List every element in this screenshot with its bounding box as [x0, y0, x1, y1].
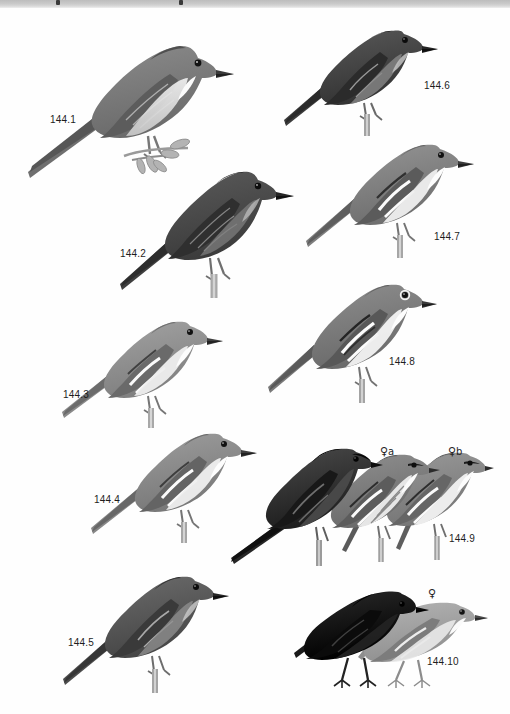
header-glyph [56, 0, 60, 5]
female-symbol-icon: ♀ [428, 587, 436, 600]
bird-illustration-144-8 [262, 265, 437, 405]
figure-144-6 [278, 14, 438, 139]
figure-label-144-3: 144.3 [63, 390, 89, 400]
bird-group-illustration-144-10 [292, 576, 492, 691]
figure-label-144-5: 144.5 [68, 638, 94, 648]
header-glyph [179, 0, 183, 5]
sex-label-144-9-a: ♀a [380, 446, 394, 457]
page-header-strip [0, 0, 510, 8]
figure-144-8 [262, 265, 437, 405]
sex-label-144-10-female: ♀ [428, 588, 436, 599]
female-symbol-icon: ♀ [380, 445, 388, 458]
sex-label-144-9-b: ♀b [448, 446, 462, 457]
figure-label-144-6: 144.6 [424, 81, 450, 91]
sub-label-b: b [456, 446, 462, 457]
bird-illustration-144-6 [278, 14, 438, 139]
figure-label-144-7: 144.7 [434, 232, 460, 242]
field-guide-plate: 144.1 [0, 0, 510, 714]
figure-label-144-2: 144.2 [120, 249, 146, 259]
bird-illustration-144-5 [55, 555, 230, 695]
figure-label-144-4: 144.4 [94, 495, 120, 505]
figure-label-144-9: 144.9 [449, 534, 475, 544]
figure-label-144-8: 144.8 [389, 357, 415, 367]
figure-144-10 [292, 576, 492, 691]
female-symbol-icon: ♀ [448, 445, 456, 458]
figure-label-144-10: 144.10 [427, 657, 459, 667]
sub-label-a: a [388, 446, 394, 457]
figure-144-5 [55, 555, 230, 695]
figure-label-144-1: 144.1 [50, 115, 76, 125]
